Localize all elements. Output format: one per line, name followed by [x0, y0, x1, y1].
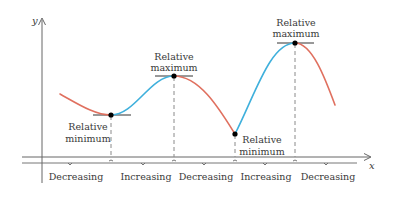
label-line2: maximum — [272, 28, 319, 39]
label-line2: minimum — [65, 133, 110, 144]
point-rel-max-2 — [292, 40, 297, 45]
annotation-rel-max-1: Relative maximum — [150, 51, 197, 73]
annotation-rel-min-2: Relative minimum — [239, 134, 284, 157]
curve-increasing-2 — [235, 43, 295, 134]
function-extrema-diagram: y x — [0, 0, 394, 197]
curve-decreasing-3 — [295, 43, 335, 105]
label-line1: Relative — [68, 121, 108, 132]
point-rel-min-2 — [232, 131, 237, 136]
interval-label-5: Decreasing — [301, 171, 356, 182]
interval-label-3: Decreasing — [179, 171, 234, 182]
point-rel-min-1 — [108, 112, 113, 117]
interval-labels: Decreasing Increasing Decreasing Increas… — [49, 171, 356, 182]
point-rel-max-1 — [171, 73, 176, 78]
interval-braces — [22, 160, 357, 165]
critical-points — [108, 40, 297, 136]
label-line1: Relative — [154, 51, 194, 62]
curve-increasing-1 — [111, 76, 174, 115]
label-line1: Relative — [276, 17, 316, 28]
tangent-lines — [93, 43, 314, 115]
interval-label-4: Increasing — [240, 171, 291, 182]
diagram-canvas: y x — [0, 0, 394, 197]
y-axis-label: y — [31, 15, 38, 26]
curve-decreasing-2 — [174, 76, 235, 134]
label-line1: Relative — [242, 134, 282, 145]
label-line2: minimum — [239, 146, 284, 157]
annotation-rel-max-2: Relative maximum — [272, 17, 319, 39]
label-line2: maximum — [150, 62, 197, 73]
annotation-rel-min-1: Relative minimum — [65, 121, 110, 144]
interval-label-1: Decreasing — [49, 171, 104, 182]
x-axis: x — [22, 154, 375, 172]
interval-label-2: Increasing — [120, 171, 171, 182]
x-axis-label: x — [369, 160, 375, 171]
y-axis: y — [31, 15, 46, 183]
curve-decreasing-1 — [60, 94, 111, 115]
